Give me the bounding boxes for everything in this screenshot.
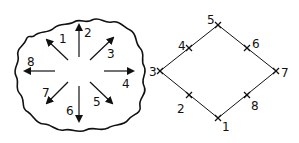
arrow-label-2: 2	[84, 26, 92, 40]
diamond-graph: 1 2 3 4 5 6 7 8	[149, 13, 289, 134]
point-label-5: 5	[207, 13, 215, 27]
point-label-4: 4	[178, 39, 186, 53]
x-marker-5	[215, 22, 221, 28]
arrow-label-1: 1	[59, 32, 67, 46]
x-marker-6	[244, 45, 250, 51]
point-label-8: 8	[251, 99, 259, 113]
x-marker-3	[157, 68, 163, 74]
diagram-canvas: 1 2 3 4 5 6 7 8 1 2 3 4 5 6 7 8	[0, 0, 299, 143]
x-marker-8	[244, 92, 250, 98]
x-marker-7	[273, 68, 279, 74]
point-label-1: 1	[222, 120, 230, 134]
point-label-6: 6	[252, 37, 260, 51]
point-label-7: 7	[281, 66, 289, 80]
arrow-7	[47, 82, 68, 103]
x-marker-1	[215, 115, 221, 121]
blob-outline	[15, 19, 145, 132]
arrow-label-3: 3	[107, 47, 115, 61]
arrow-label-5: 5	[93, 95, 101, 109]
point-label-2: 2	[177, 102, 185, 116]
arrow-label-8: 8	[27, 55, 35, 69]
arrow-label-6: 6	[66, 104, 74, 118]
blob-region: 1 2 3 4 5 6 7 8	[15, 19, 145, 132]
point-label-3: 3	[149, 65, 157, 79]
arrow-label-4: 4	[122, 77, 130, 91]
x-marker-4	[186, 45, 192, 51]
x-marker-2	[186, 92, 192, 98]
arrow-label-7: 7	[42, 86, 50, 100]
